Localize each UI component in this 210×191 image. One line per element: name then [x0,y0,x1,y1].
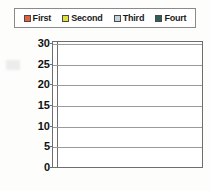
legend-item-fourt[interactable]: Fourt [155,14,186,23]
legend-swatch-icon [155,15,162,22]
y-tick-label: 0 [4,162,50,173]
legend-item-label: Fourt [164,14,186,23]
y-tick-label: 30 [4,38,50,49]
legend-item-third[interactable]: Third [114,14,145,23]
y-tick-label: 25 [4,58,50,69]
legend-item-label: First [33,14,52,23]
bar-chart: FirstSecondThirdFourt 051015202530 [0,0,210,191]
y-tick-label: 20 [4,79,50,90]
legend-item-label: Second [71,14,102,23]
legend-item-first[interactable]: First [24,14,52,23]
y-tick-label: 10 [4,120,50,131]
bars-layer [57,42,202,167]
y-axis: 051015202530 [0,41,50,168]
legend-item-label: Third [123,14,145,23]
legend-swatch-icon [114,15,121,22]
y-tick-label: 5 [4,141,50,152]
legend-swatch-icon [24,15,31,22]
legend-item-second[interactable]: Second [62,14,102,23]
y-tick-label: 15 [4,100,50,111]
chart-legend: FirstSecondThirdFourt [14,8,196,28]
legend-swatch-icon [62,15,69,22]
